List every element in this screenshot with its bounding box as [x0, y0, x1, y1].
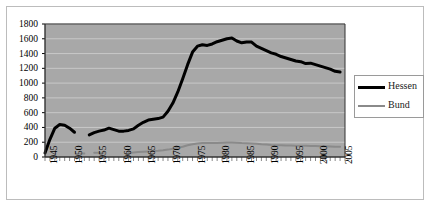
legend-swatch-hessen-icon [358, 86, 385, 89]
x-tick-label: 2005 [344, 146, 354, 164]
x-tick-label: 1980 [221, 146, 231, 164]
x-tick-label: 1960 [123, 146, 133, 164]
legend-label-bund: Bund [388, 99, 410, 110]
x-tick-label: 2000 [319, 146, 329, 164]
chart-area: 020040060080010001200140016001800 194519… [0, 0, 432, 217]
plot-background [45, 24, 345, 157]
y-tick-label: 200 [4, 137, 38, 147]
x-tick-label: 1970 [172, 146, 182, 164]
y-tick-label: 1000 [4, 78, 38, 88]
x-tick-label: 1975 [197, 146, 207, 164]
legend-swatch-bund-icon [358, 105, 385, 107]
x-tick-label: 1965 [147, 146, 157, 164]
legend-item-hessen: Hessen [358, 79, 422, 95]
y-tick-label: 1800 [4, 19, 38, 29]
y-tick-label: 1600 [4, 34, 38, 44]
y-tick-label: 600 [4, 108, 38, 118]
x-tick-label: 1950 [74, 146, 84, 164]
x-tick-label: 1985 [246, 146, 256, 164]
chart-screenshot: 020040060080010001200140016001800 194519… [0, 0, 432, 217]
x-tick-label: 1955 [98, 146, 108, 164]
legend-item-bund: Bund [358, 98, 422, 114]
y-tick-label: 400 [4, 122, 38, 132]
chart-legend: Hessen Bund [354, 75, 424, 118]
y-tick-label: 0 [4, 152, 38, 162]
x-tick-label: 1945 [49, 146, 59, 164]
y-tick-label: 1200 [4, 63, 38, 73]
y-tick-label: 1400 [4, 49, 38, 59]
x-tick-label: 1995 [295, 146, 305, 164]
x-tick-label: 1990 [270, 146, 280, 164]
legend-label-hessen: Hessen [388, 80, 417, 91]
y-tick-label: 800 [4, 93, 38, 103]
